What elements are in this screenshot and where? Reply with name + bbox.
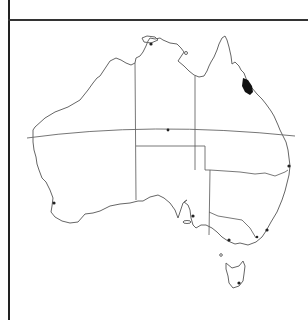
nsw-vic-border xyxy=(209,212,256,238)
qld-nsw-border xyxy=(210,170,288,176)
mainland-coastline xyxy=(33,36,290,245)
tiwi-islands xyxy=(142,36,158,43)
canberra-marker xyxy=(256,236,259,239)
sa-qld-nsw-border xyxy=(205,146,210,235)
hobart-marker xyxy=(237,281,240,284)
kangaroo-island xyxy=(183,221,191,224)
wa-border xyxy=(135,63,136,200)
king-island xyxy=(220,254,223,257)
australia-map xyxy=(0,0,308,320)
perth-marker xyxy=(52,201,55,204)
tropic-of-capricorn xyxy=(27,129,295,138)
darwin-marker xyxy=(149,42,152,45)
tasmania-coastline xyxy=(226,261,245,288)
brisbane-marker xyxy=(287,164,290,167)
sydney-marker xyxy=(265,228,268,231)
melbourne-marker xyxy=(227,238,230,241)
distribution-area xyxy=(242,78,253,95)
adelaide-marker xyxy=(191,214,194,217)
alice-springs-marker xyxy=(167,129,170,132)
groote-eylandt xyxy=(185,52,188,55)
